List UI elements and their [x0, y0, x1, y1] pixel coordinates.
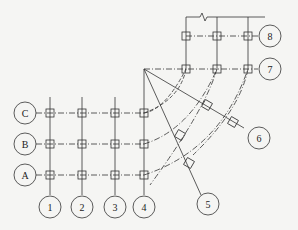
grid-drawing: C B A 1 2 3 4 8 7 5 6	[0, 0, 298, 230]
radial-axis-label: 6	[257, 133, 262, 144]
column-axis-label: 3	[113, 202, 118, 213]
row-axis-label: B	[22, 139, 29, 150]
column-axis-label: 2	[80, 202, 85, 213]
radial-axis-label: 5	[206, 199, 211, 210]
row-axis-label: A	[21, 170, 29, 181]
upper-row-label: 7	[268, 64, 273, 75]
column-axis-label: 4	[142, 202, 147, 213]
column-markers	[46, 32, 252, 179]
upper-row-label: 8	[268, 31, 273, 42]
axis-grid-diagram: C B A 1 2 3 4 8 7 5 6	[0, 0, 298, 230]
break-line	[186, 13, 265, 21]
column-axis-label: 1	[48, 202, 53, 213]
row-axis-label: C	[22, 108, 29, 119]
